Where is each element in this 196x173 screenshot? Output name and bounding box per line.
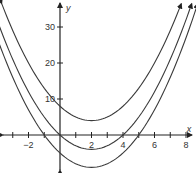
graph: −2 2 4 6 8 10 20 30 x y xyxy=(0,0,196,173)
x-tick-label: 4 xyxy=(120,140,125,150)
x-tick-label: 2 xyxy=(89,140,94,150)
y-tick-label: 20 xyxy=(45,58,55,68)
y-tick-label: 30 xyxy=(45,22,55,32)
x-tick-label: 8 xyxy=(183,140,188,150)
parabola-curve xyxy=(0,4,192,150)
x-tick-label: −2 xyxy=(23,140,33,150)
y-axis-label: y xyxy=(65,3,71,13)
parabola-curve xyxy=(2,4,182,121)
x-axis-label: x xyxy=(186,124,192,134)
x-tick-label: 6 xyxy=(152,140,157,150)
